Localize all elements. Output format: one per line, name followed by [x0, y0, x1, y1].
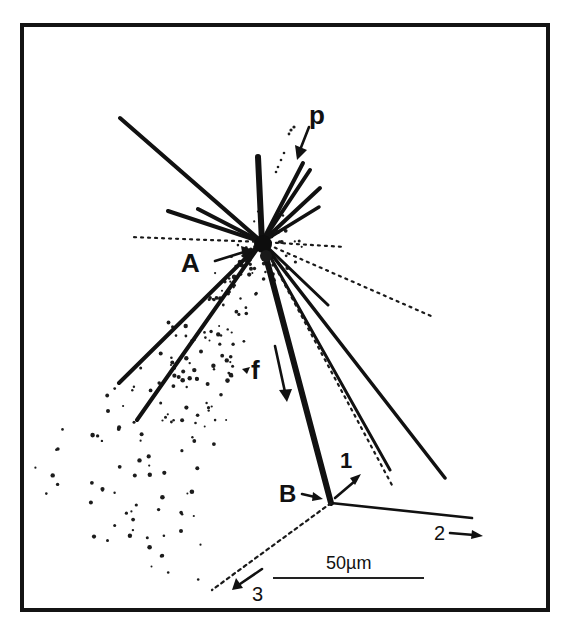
fragment-dot [212, 298, 214, 300]
label-A: A [181, 248, 200, 278]
fragment-dot [161, 419, 163, 421]
p-arrow [295, 127, 309, 160]
fragment-dot [133, 386, 135, 388]
B-arrow [302, 492, 323, 501]
fragment-dot [251, 272, 253, 274]
fragment-dot [172, 374, 176, 378]
vertex-dot [298, 240, 301, 243]
fragment-dot [220, 334, 222, 336]
dotted-track-A-1 [262, 242, 431, 316]
fragment-dot [170, 356, 173, 359]
scale-bar-label: 50µm [326, 553, 371, 573]
p-track-dots [275, 125, 296, 173]
fragment-dot [193, 515, 195, 517]
fragment-dot [180, 449, 183, 452]
fragment-dot [162, 471, 166, 475]
track-A-12 [262, 242, 390, 470]
vertex-dot [253, 267, 256, 270]
fragment-dot [140, 440, 142, 442]
scale-bar: 50µm [273, 553, 424, 578]
fragment-dot [89, 501, 93, 505]
vertex-dot [294, 260, 297, 263]
fragment-dot [192, 439, 196, 443]
fragment-dot [128, 534, 132, 538]
fragment-dot [140, 432, 144, 436]
fragment-dot [209, 330, 212, 333]
label-B: B [279, 480, 296, 507]
fragment-dot [222, 304, 225, 307]
fragment-dot [177, 375, 181, 379]
label-f: f [251, 355, 260, 385]
fragment-dot [239, 297, 241, 299]
track-A-1 [258, 157, 262, 242]
fragment-dot [147, 454, 151, 458]
vertex-A-blob-2 [260, 250, 272, 262]
vertex-dot [294, 240, 296, 242]
label-track-2: 2 [434, 522, 445, 544]
fragment-dot [113, 524, 116, 527]
fragment-dot [101, 440, 103, 442]
fragment-dot [161, 554, 164, 557]
fragment-dot [91, 434, 95, 438]
fragment-dot [208, 409, 210, 411]
fragment-dot [163, 535, 166, 538]
fragment-dot [225, 358, 229, 362]
fragment-dot [245, 306, 248, 309]
fragment-dot [192, 368, 196, 372]
fragment-dot [243, 340, 246, 343]
fragment-dot [237, 313, 240, 316]
fragment-dot [195, 377, 199, 381]
fragment-dot [146, 536, 149, 539]
fragment-dot [92, 535, 96, 539]
fragment-dot [227, 328, 229, 330]
fragment-dot [118, 465, 122, 469]
fragment-dot [157, 508, 160, 511]
track-2 [331, 503, 472, 518]
fragment-dot [113, 492, 115, 494]
fragment-dot [190, 489, 195, 494]
fragment-dot [55, 449, 57, 451]
fragment-dot [191, 436, 193, 438]
fragment-dot [149, 389, 153, 393]
fragment-dot [160, 495, 165, 500]
fragment-dot [96, 434, 99, 437]
fragment-dot [209, 339, 211, 341]
fragment-dot [184, 324, 188, 328]
track-A-0 [120, 118, 262, 242]
fragment-dot [218, 343, 221, 346]
fragment-dot [229, 361, 231, 363]
fragment-dot [199, 544, 201, 546]
fragment-dot [249, 267, 253, 271]
vertex-dot [264, 271, 266, 273]
fragment-dot [159, 401, 162, 404]
fragment-dot [147, 545, 152, 550]
fragment-dot [101, 489, 103, 491]
fragment-dot [231, 365, 234, 368]
vertex-dot [262, 277, 266, 281]
fragment-dot [170, 421, 173, 424]
fragment-dot [231, 331, 233, 333]
fragment-dot [229, 281, 231, 283]
fragment-dot [90, 481, 94, 485]
vertex-dot [301, 246, 303, 248]
f-marker [242, 367, 250, 374]
fragment-dot [225, 419, 227, 421]
dotted-track-A-2 [262, 242, 393, 487]
fragment-dot [105, 394, 109, 398]
track-2-arrow [450, 530, 483, 539]
fragment-dot [227, 372, 230, 375]
vertex-A-blob [254, 235, 272, 253]
fragment-dot [167, 413, 169, 415]
fragment-dot [106, 409, 110, 413]
fragment-dot [218, 325, 220, 327]
fragment-dot [189, 362, 191, 364]
fragment-dot [197, 578, 200, 581]
fragment-dot [106, 539, 109, 542]
vertex-dot [254, 293, 257, 296]
fragment-dot [159, 351, 163, 355]
fragment-dot [220, 354, 224, 358]
vertex-dot [237, 244, 240, 247]
fragment-dot [231, 343, 234, 346]
fragment-dot [211, 364, 215, 368]
dotted-track-A-0 [130, 237, 262, 242]
